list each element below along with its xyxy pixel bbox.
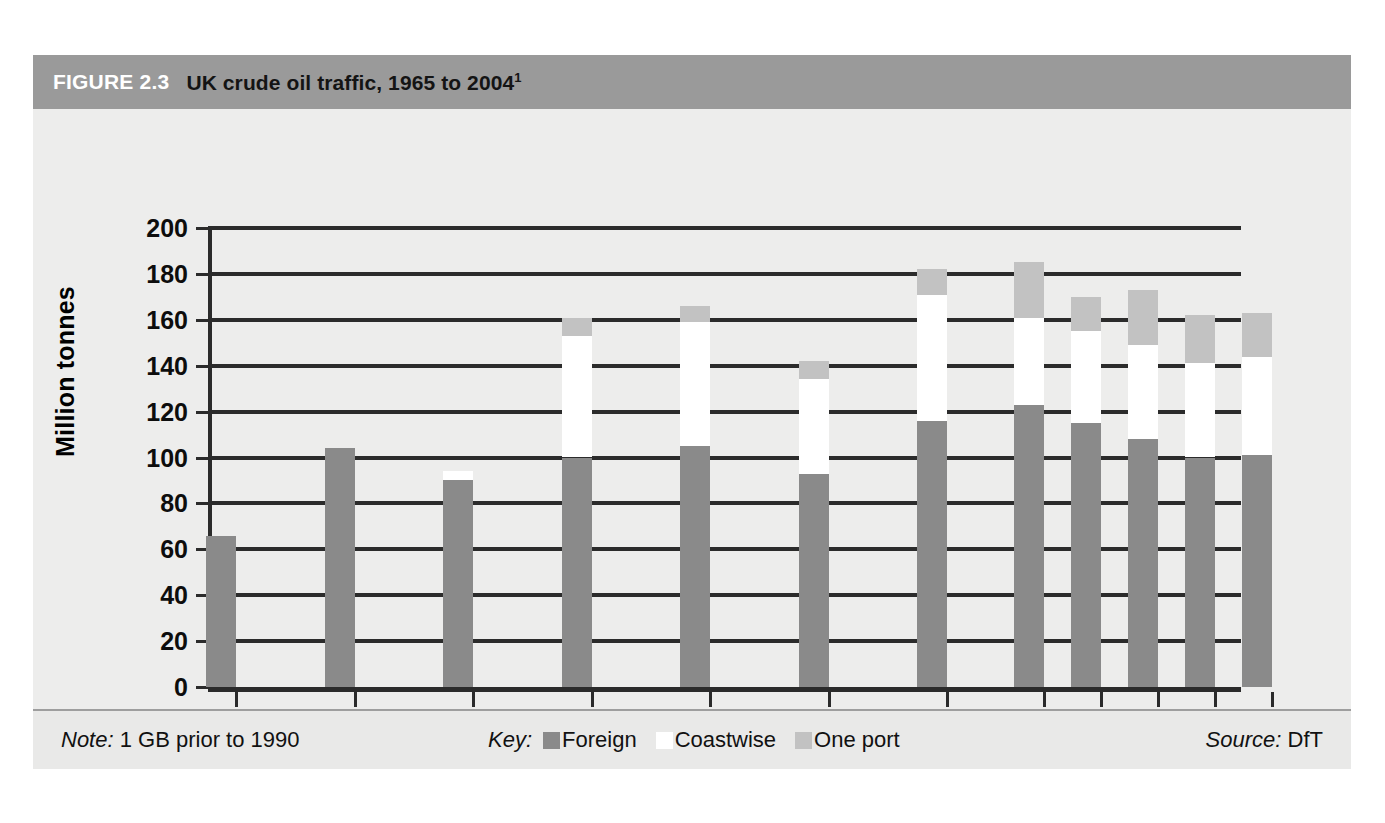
legend-text-coastwise: Coastwise (675, 727, 776, 753)
y-tick-label-120: 120 (118, 398, 188, 427)
x-axis-line (208, 687, 1241, 692)
x-tick-mark-2003 (1214, 692, 1217, 707)
bar-chart: 0204060801001201401601802001965197019751… (33, 109, 1351, 709)
figure-page: FIGURE 2.3 UK crude oil traffic, 1965 to… (0, 0, 1385, 823)
x-tick-mark-1995 (946, 692, 949, 707)
footnote-label: Note: (61, 727, 114, 752)
figure-footer: Note: 1 GB prior to 1990 Key: Foreign Co… (33, 709, 1351, 769)
y-tick-label-140: 140 (118, 352, 188, 381)
legend-swatch-foreign-icon (543, 732, 560, 749)
bar-segment-foreign-2001 (1071, 423, 1101, 687)
bar-segment-foreign-2004 (1242, 455, 1272, 687)
bar-segment-foreign-1995 (917, 421, 947, 687)
bar-segment-coastwise-1995 (917, 295, 947, 421)
y-tick-label-180: 180 (118, 260, 188, 289)
bar-segment-one-port-1985 (680, 306, 710, 322)
y-tick-mark-160 (196, 319, 209, 322)
bar-segment-coastwise-2001 (1071, 331, 1101, 423)
y-tick-label-0: 0 (118, 673, 188, 702)
legend-text-one-port: One port (814, 727, 900, 753)
x-tick-mark-2000 (1043, 692, 1046, 707)
figure-header: FIGURE 2.3 UK crude oil traffic, 1965 to… (33, 55, 1351, 109)
legend-item-coastwise: Coastwise (656, 727, 776, 753)
bar-segment-one-port-2001 (1071, 297, 1101, 331)
source-note: Source: DfT (1206, 727, 1323, 753)
y-tick-label-60: 60 (118, 535, 188, 564)
x-tick-mark-1980 (591, 692, 594, 707)
x-tick-mark-2004 (1271, 692, 1274, 707)
bar-segment-foreign-1990 (799, 474, 829, 687)
legend-item-one-port: One port (795, 727, 900, 753)
figure-title-superscript: 1 (514, 70, 521, 85)
bar-segment-coastwise-1975 (443, 471, 473, 480)
bar-segment-one-port-2004 (1242, 313, 1272, 357)
y-tick-label-100: 100 (118, 444, 188, 473)
bar-segment-coastwise-1985 (680, 322, 710, 446)
bar-segment-one-port-2000 (1014, 262, 1044, 317)
bar-segment-foreign-2003 (1185, 458, 1215, 688)
footnote: Note: 1 GB prior to 1990 (61, 727, 300, 753)
figure-title-text: UK crude oil traffic, 1965 to 2004 (186, 71, 514, 94)
bar-segment-coastwise-1990 (799, 379, 829, 473)
legend-item-foreign: Foreign (543, 727, 637, 753)
legend-text-foreign: Foreign (562, 727, 637, 753)
bar-segment-coastwise-1980 (562, 336, 592, 458)
x-tick-mark-1970 (354, 692, 357, 707)
y-tick-label-80: 80 (118, 489, 188, 518)
y-tick-mark-120 (196, 411, 209, 414)
figure-title: UK crude oil traffic, 1965 to 20041 (186, 70, 521, 95)
bar-segment-foreign-1975 (443, 480, 473, 687)
bar-segment-one-port-1980 (562, 318, 592, 336)
y-tick-mark-140 (196, 365, 209, 368)
source-text: DfT (1288, 727, 1323, 752)
legend-swatch-coastwise-icon (656, 732, 673, 749)
x-tick-mark-2001 (1100, 692, 1103, 707)
y-tick-mark-200 (196, 227, 209, 230)
bar-segment-foreign-2000 (1014, 405, 1044, 687)
chart-legend: Key: Foreign Coastwise One port (488, 727, 912, 753)
x-tick-mark-1975 (472, 692, 475, 707)
gridline-200 (208, 226, 1241, 230)
bar-segment-foreign-1985 (680, 446, 710, 687)
y-tick-label-200: 200 (118, 214, 188, 243)
y-tick-mark-80 (196, 502, 209, 505)
x-tick-mark-1965 (235, 692, 238, 707)
gridline-180 (208, 272, 1241, 276)
bar-segment-foreign-1980 (562, 458, 592, 688)
figure-panel: FIGURE 2.3 UK crude oil traffic, 1965 to… (33, 55, 1351, 767)
x-tick-mark-1990 (828, 692, 831, 707)
bar-segment-foreign-1965 (206, 536, 236, 687)
x-tick-mark-2002 (1157, 692, 1160, 707)
y-tick-mark-180 (196, 273, 209, 276)
bar-segment-coastwise-2004 (1242, 357, 1272, 456)
y-tick-label-20: 20 (118, 627, 188, 656)
bar-segment-one-port-1990 (799, 361, 829, 379)
x-tick-mark-1985 (709, 692, 712, 707)
footnote-text: 1 GB prior to 1990 (120, 727, 300, 752)
source-label: Source: (1206, 727, 1282, 752)
y-tick-label-160: 160 (118, 306, 188, 335)
y-tick-label-40: 40 (118, 581, 188, 610)
bar-segment-one-port-2002 (1128, 290, 1158, 345)
figure-number: FIGURE 2.3 (53, 70, 169, 94)
legend-label: Key: (488, 727, 532, 753)
bar-segment-one-port-1995 (917, 269, 947, 294)
bar-segment-coastwise-2002 (1128, 345, 1158, 439)
bar-segment-coastwise-2003 (1185, 363, 1215, 457)
bar-segment-coastwise-2000 (1014, 318, 1044, 405)
plot-area: Million tonnes 0204060801001201401601802… (33, 109, 1351, 709)
bar-segment-one-port-2003 (1185, 315, 1215, 363)
bar-segment-foreign-2002 (1128, 439, 1158, 687)
y-tick-mark-100 (196, 457, 209, 460)
legend-swatch-one-port-icon (795, 732, 812, 749)
bar-segment-foreign-1970 (325, 448, 355, 687)
